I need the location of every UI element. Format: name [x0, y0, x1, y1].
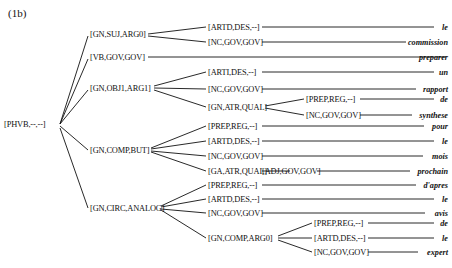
- tree-terminal-word: le: [442, 234, 448, 243]
- tree-node-level4: [PREP,REG,--]: [314, 219, 363, 228]
- tree-edge: [154, 88, 206, 89]
- tree-terminal-word: pour: [432, 122, 448, 131]
- tree-edge: [265, 108, 304, 115]
- tree-terminal-word: commission: [408, 38, 448, 47]
- tree-edge: [278, 240, 312, 252]
- tree-edge: [60, 126, 88, 150]
- tree-edge: [161, 185, 206, 206]
- tree-node-level2: [VB,GOV,GOV]: [90, 53, 145, 62]
- tree-edge: [148, 36, 206, 42]
- tree-terminal-word: de: [440, 219, 448, 228]
- tree-edge: [161, 210, 206, 238]
- tree-terminal-word: prochain: [418, 167, 448, 176]
- tree-node-level2: [GN,SUJ,ARG0]: [90, 30, 146, 39]
- tree-node-level4: [ADJ,GOV,GOV]: [262, 167, 320, 176]
- tree-node-level3: [ARTI,DES,--]: [208, 68, 256, 77]
- tree-node-level2: [GN,CIRC,ANALOG]: [90, 204, 164, 213]
- tree-node-level4: [NC,GOV,GOV]: [314, 248, 369, 257]
- tree-node-level3: [GA,ATR,QUAL]: [208, 167, 267, 176]
- tree-terminal-word: expert: [427, 248, 448, 257]
- tree-edge: [60, 59, 88, 124]
- tree-edge: [60, 90, 88, 124]
- tree-terminal-word: preparer: [419, 53, 448, 62]
- tree-node-level3: [ARTD,DES,--]: [208, 23, 260, 32]
- tree-node-root: [PHVB,--,--]: [4, 120, 45, 129]
- tree-node-level4: [PREP,REG,--]: [306, 95, 355, 104]
- tree-terminal-word: de: [440, 95, 448, 104]
- tree-terminal-word: le: [442, 137, 448, 146]
- tree-node-level2: [GN,OBJ1,ARG1]: [90, 84, 151, 93]
- tree-edge: [265, 99, 304, 106]
- tree-node-level2: [GN,COMP,BUT]: [90, 146, 149, 155]
- tree-terminal-word: le: [442, 23, 448, 32]
- tree-edge: [278, 223, 312, 236]
- tree-terminal-word: le: [442, 195, 448, 204]
- tree-terminal-word: rapport: [423, 85, 448, 94]
- tree-node-level3: [GN,ATR,QUAL]: [208, 103, 267, 112]
- tree-edge: [151, 152, 206, 171]
- tree-edge: [154, 90, 206, 107]
- tree-node-level3: [NC,GOV,GOV]: [208, 209, 263, 218]
- tree-edge: [151, 141, 206, 149]
- tree-edge: [161, 199, 206, 207]
- tree-edge: [151, 151, 206, 156]
- tree-node-level3: [PREP,REG,--]: [208, 122, 257, 131]
- tree-terminal-word: d'apres: [423, 181, 448, 190]
- tree-node-level4: [NC,GOV,GOV]: [306, 111, 361, 120]
- figure-tree-diagram: (1b) [PHVB,--,--][GN,SUJ,ARG0][VB,GOV,GO…: [0, 0, 452, 268]
- tree-node-level4: [ARTD,DES,--]: [314, 234, 366, 243]
- tree-node-level3: [PREP,REG,--]: [208, 181, 257, 190]
- tree-node-level3: [NC,GOV,GOV]: [208, 152, 263, 161]
- figure-caption: (1b): [8, 7, 26, 19]
- tree-edge: [60, 128, 88, 208]
- tree-node-level3: [ARTD,DES,--]: [208, 195, 260, 204]
- tree-node-level3: [NC,GOV,GOV]: [208, 38, 263, 47]
- tree-terminal-word: un: [439, 68, 448, 77]
- tree-node-level3: [GN,COMP,ARG0]: [208, 234, 272, 243]
- tree-terminal-word: mois: [432, 152, 448, 161]
- tree-edge: [161, 209, 206, 213]
- tree-edge: [60, 36, 88, 124]
- tree-edge: [151, 126, 206, 148]
- tree-terminal-word: synthese: [419, 111, 448, 120]
- tree-node-level3: [NC,GOV,GOV]: [208, 85, 263, 94]
- tree-edge: [154, 72, 206, 86]
- tree-edge: [148, 27, 206, 34]
- tree-node-level3: [ARTD,DES,--]: [208, 137, 260, 146]
- tree-terminal-word: avis: [435, 209, 448, 218]
